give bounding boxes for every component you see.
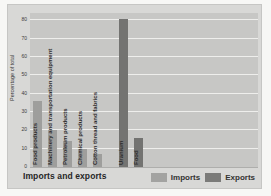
gridline-40	[30, 93, 258, 94]
gridline-60	[30, 56, 258, 57]
plot-area: 01020304050607080Food productsMachinery …	[30, 13, 258, 168]
chart-screenshot: { "chart_data": { "type": "bar", "title"…	[0, 0, 271, 196]
legend: Imports Exports	[151, 173, 255, 182]
legend-item-imports: Imports	[151, 173, 200, 182]
chart-card: Percentage of total 01020304050607080Foo…	[7, 4, 262, 189]
legend-label-imports: Imports	[171, 173, 200, 182]
bar-label: Chemical products	[77, 111, 84, 165]
gridline-80	[30, 19, 258, 20]
bar-label: Cotton thread and fabrics	[92, 92, 99, 165]
y-tick-50: 50	[13, 72, 27, 77]
chart-title: Imports and exports	[23, 171, 107, 181]
y-tick-20: 20	[13, 127, 27, 132]
y-tick-40: 40	[13, 91, 27, 96]
legend-label-exports: Exports	[225, 173, 255, 182]
gridline-50	[30, 74, 258, 75]
bar-label: Petroleum products	[62, 108, 69, 165]
legend-item-exports: Exports	[205, 173, 255, 182]
chart-footer: Imports and exports Imports Exports	[8, 165, 261, 188]
imports-swatch	[151, 173, 167, 182]
bar-label: Uranium	[118, 141, 125, 165]
bar-label: Machinery and transportation equipment	[47, 49, 54, 165]
y-tick-80: 80	[13, 17, 27, 22]
y-tick-10: 10	[13, 146, 27, 151]
y-tick-60: 60	[13, 54, 27, 59]
bar-label: Food	[133, 150, 140, 165]
y-tick-70: 70	[13, 36, 27, 41]
y-tick-30: 30	[13, 109, 27, 114]
bar-label: Food products	[32, 123, 39, 165]
exports-swatch	[205, 173, 221, 182]
gridline-70	[30, 38, 258, 39]
